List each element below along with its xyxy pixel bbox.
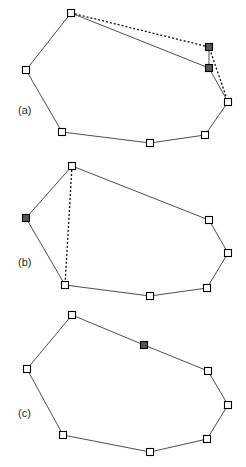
panel-a-vertex-bottom-left-open[interactable] (59, 129, 66, 136)
panel-c-vertex-bottom-left-open[interactable] (60, 432, 67, 439)
panel-b-vertex-left-filled-filled[interactable] (23, 215, 30, 222)
panel-a-vertex-upper-right-filled-filled[interactable] (206, 44, 213, 51)
panel-a-vertex-bottom-open[interactable] (147, 140, 154, 147)
panel-b-solid-outline (26, 166, 228, 296)
panel-b-dashed-path-0 (65, 166, 72, 285)
panel-a: (a) (18, 10, 232, 147)
panel-c-vertex-top-open[interactable] (69, 312, 76, 319)
panel-a-vertex-lower-right-open[interactable] (202, 132, 209, 139)
panel-c-vertex-top-right-filled-filled[interactable] (141, 342, 148, 349)
panel-a-vertex-top-open[interactable] (68, 10, 75, 17)
panel-a-dashed-path-0 (71, 13, 228, 102)
panel-a-vertex-mid-right-filled-filled[interactable] (206, 65, 213, 72)
panel-a-vertex-right-open[interactable] (225, 99, 232, 106)
panel-a-label: (a) (18, 104, 31, 116)
panel-b-vertex-upper-right-open[interactable] (206, 217, 213, 224)
panel-c-solid-outline (27, 315, 228, 452)
panel-b-vertex-lower-right-open[interactable] (204, 285, 211, 292)
panel-c-vertex-bottom-open[interactable] (147, 449, 154, 456)
panel-c: (c) (18, 312, 232, 456)
panel-c-label: (c) (18, 407, 31, 419)
panel-b-vertex-top-open[interactable] (69, 163, 76, 170)
panel-c-vertex-right-open[interactable] (225, 402, 232, 409)
panel-b-vertex-bottom-open[interactable] (147, 293, 154, 300)
panel-c-vertex-left-open[interactable] (24, 366, 31, 373)
figure-root: (a)(b)(c) (0, 0, 246, 467)
polygon-figure-canvas: (a)(b)(c) (0, 0, 246, 467)
panel-b-vertex-bottom-left-open[interactable] (62, 282, 69, 289)
panel-a-vertex-left-open[interactable] (23, 67, 30, 74)
panel-b: (b) (18, 163, 232, 300)
panel-b-label: (b) (18, 256, 31, 268)
panel-c-vertex-upper-right-open[interactable] (205, 368, 212, 375)
panel-c-vertex-lower-right-open[interactable] (204, 436, 211, 443)
panel-a-solid-outline (26, 13, 228, 143)
panel-b-vertex-right-open[interactable] (225, 250, 232, 257)
